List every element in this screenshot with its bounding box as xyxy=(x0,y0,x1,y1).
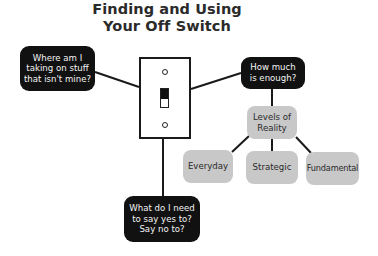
edge-switch-enough xyxy=(191,73,241,89)
node-enough-line-1: How much xyxy=(250,62,297,73)
node-where-line-1: Where am I xyxy=(24,53,91,64)
toggle-lever-icon xyxy=(160,88,169,108)
node-strategic: Strategic xyxy=(246,151,298,184)
node-fundamental-label: Fundamental xyxy=(307,163,358,174)
node-where-line-2: taking on stuff xyxy=(24,63,91,74)
node-say-line-1: What do I need xyxy=(129,203,195,214)
node-how-much: How much is enough? xyxy=(241,57,305,89)
node-strategic-label: Strategic xyxy=(253,162,292,173)
node-fundamental: Fundamental xyxy=(306,152,359,185)
node-say-line-2: to say yes to? xyxy=(129,214,195,225)
node-everyday-label: Everyday xyxy=(188,161,228,172)
light-switch-icon xyxy=(139,57,191,139)
node-enough-line-2: is enough? xyxy=(250,73,297,84)
edge-levels-fundamental xyxy=(296,137,311,153)
edge-switch-where xyxy=(95,72,139,87)
node-what-do-i-need: What do I need to say yes to? Say no to? xyxy=(124,196,200,242)
node-levels-of-reality: Levels of Reality xyxy=(247,106,297,139)
node-everyday: Everyday xyxy=(183,150,233,183)
node-say-line-3: Say no to? xyxy=(129,224,195,235)
node-levels-line-2: Reality xyxy=(253,123,291,134)
top-screw-icon xyxy=(162,69,168,75)
node-where-am-i: Where am I taking on stuff that isn't mi… xyxy=(20,46,95,91)
node-where-line-3: that isn't mine? xyxy=(24,74,91,85)
node-levels-line-1: Levels of xyxy=(253,112,291,123)
edge-levels-everyday xyxy=(232,136,249,152)
bottom-screw-icon xyxy=(162,122,168,128)
